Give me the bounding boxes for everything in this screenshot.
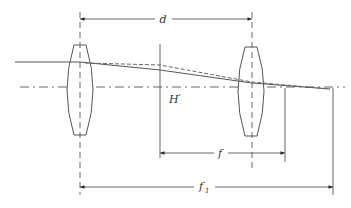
- optics-diagram: d H' f f1: [0, 0, 351, 208]
- label-d: d: [159, 13, 166, 26]
- ray-extended: [85, 63, 330, 89]
- label-f1: f1: [198, 180, 210, 195]
- lens-1: [67, 45, 93, 135]
- label-f: f: [217, 147, 224, 160]
- label-principal-plane: H': [168, 92, 181, 106]
- lens-2: [238, 47, 264, 136]
